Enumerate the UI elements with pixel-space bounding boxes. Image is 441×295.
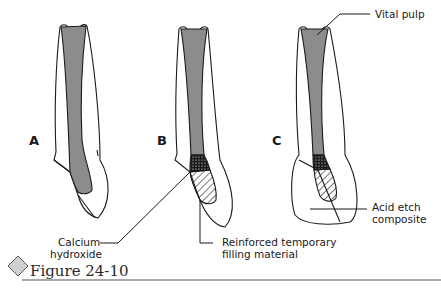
label-reinforced-line1: Reinforced temporary [222, 236, 336, 248]
panel-letter-c: C [272, 133, 282, 148]
figure-canvas: A B C Vital pulp Calcium hydroxide Reinf… [0, 0, 441, 295]
tooth-c [292, 27, 357, 224]
tooth-b [175, 27, 232, 227]
reinforced-filling-c [314, 169, 337, 201]
figure-caption: Figure 24-10 [30, 262, 129, 280]
leader-reinforced [200, 200, 213, 243]
panel-letter-b: B [157, 133, 167, 148]
calcium-hydroxide-b [190, 155, 210, 172]
calcium-hydroxide-c [313, 155, 330, 170]
diamond-icon [8, 256, 28, 276]
leader-lines [100, 14, 370, 243]
pulp-c [301, 29, 328, 155]
label-calcium-line1: Calcium [58, 236, 100, 248]
pulp-b [181, 29, 207, 155]
reinforced-filling-b [190, 170, 216, 204]
label-vital-pulp: Vital pulp [375, 8, 425, 20]
label-acid-etch-line2: composite [372, 213, 426, 225]
label-acid-etch-line1: Acid etch [372, 201, 421, 213]
panel-letter-a: A [29, 133, 39, 148]
label-reinforced-line2: filling material [222, 248, 298, 260]
tooth-a [54, 25, 108, 218]
label-calcium-line2: hydroxide [50, 248, 102, 260]
leader-calcium-hydroxide [100, 172, 190, 243]
